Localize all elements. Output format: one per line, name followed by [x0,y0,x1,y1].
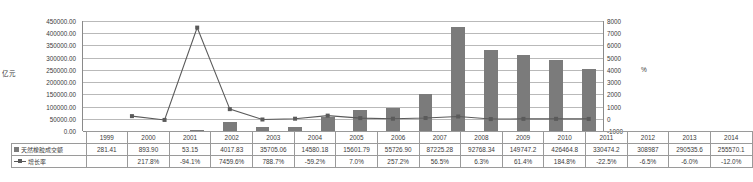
legend-item-turnover: 天然橡胶成交额 [12,144,87,156]
growth-rate-marker [130,114,134,118]
table-cell-turnover-2007: 87225.28 [419,144,461,156]
growth-rate-marker [326,114,330,118]
table-corner-cell [12,132,87,144]
gridline [83,70,603,71]
bar-2009 [419,94,433,131]
table-cell-turnover-2000: 893.90 [128,144,170,156]
table-cell-growth-2013: -6.0% [669,156,711,168]
table-cell-growth-2012: -6.5% [627,156,669,168]
y-axis-left-tick-label: 150000.00 [46,91,76,98]
bar-2003 [223,122,237,131]
table-row: 天然橡胶成交额281.41893.9053.154017.8335705.061… [12,144,753,156]
bar-2014 [582,69,596,131]
data-table-body: 1999200020012002200320042005200620072008… [12,132,753,168]
table-cell-turnover-2005: 15601.79 [336,144,378,156]
line-series-layer [83,21,603,131]
legend-label-growth-rate: 增长率 [28,157,46,167]
table-cell-growth-1999 [86,156,128,168]
table-header-2006: 2006 [377,132,419,144]
y-axis-right-tick-label: 1000 [607,103,621,110]
y-axis-right-tick-label: 8000 [607,18,621,25]
table-cell-growth-2011: -22.5% [586,156,628,168]
table-cell-turnover-2012: 308987 [627,144,669,156]
table-cell-growth-2008: 6.3% [461,156,503,168]
table-cell-turnover-2004: 14580.18 [294,144,336,156]
table-header-2008: 2008 [461,132,503,144]
gridline [83,94,603,95]
table-cell-growth-2007: 56.5% [419,156,461,168]
gridline [83,82,603,83]
table-cell-growth-2002: 7459.6% [211,156,253,168]
bar-series-layer [83,21,603,131]
table-cell-turnover-2013: 290535.6 [669,144,711,156]
gridline [83,107,603,108]
y-axis-right-tick-label: 4000 [607,66,621,73]
table-cell-growth-2014: -12.0% [710,156,752,168]
plot-area [82,21,604,131]
y-axis-right-tick-label: 6000 [607,42,621,49]
table-cell-growth-2005: 7.0% [336,156,378,168]
y-axis-left-tick-label: 400000.00 [46,30,76,37]
table-cell-turnover-2006: 55726.90 [377,144,419,156]
legend-label-turnover: 天然橡胶成交额 [21,145,63,155]
table-header-2012: 2012 [627,132,669,144]
table-header-2014: 2014 [710,132,752,144]
table-header-2000: 2000 [128,132,170,144]
y-axis-right-tick-label: 0 [607,115,611,122]
table-cell-growth-2003: 788.7% [253,156,295,168]
table-header-2002: 2002 [211,132,253,144]
gridline [83,119,603,120]
table-header-1999: 1999 [86,132,128,144]
bar-2010 [451,27,465,131]
table-header-2013: 2013 [669,132,711,144]
table-cell-growth-2000: 217.8% [128,156,170,168]
table-cell-growth-2004: -59.2% [294,156,336,168]
y-axis-right-tick-label: 2000 [607,91,621,98]
y-axis-left-tick-label: 250000.00 [46,66,76,73]
legend-item-growth-rate: 增长率 [12,156,87,168]
y-axis-right-ticks: -1000010002000300040005000600070008000 [607,21,667,131]
table-cell-turnover-2009: 149747.2 [502,144,544,156]
legend-bar-swatch-icon [14,147,19,152]
table-cell-growth-2009: 61.4% [502,156,544,168]
y-axis-left-tick-label: 50000.00 [50,115,76,122]
table-cell-turnover-2001: 53.15 [169,144,211,156]
table-cell-growth-2006: 257.2% [377,156,419,168]
table-cell-growth-2001: -94.1% [169,156,211,168]
table-cell-turnover-1999: 281.41 [86,144,128,156]
gridline [83,45,603,46]
table-header-2004: 2004 [294,132,336,144]
gridline [83,58,603,59]
gridline [83,33,603,34]
table-header-row: 1999200020012002200320042005200620072008… [12,132,753,144]
y-axis-left-tick-label: 450000.00 [46,18,76,25]
y-axis-left-tick-label: 350000.00 [46,42,76,49]
table-cell-turnover-2010: 426464.8 [544,144,586,156]
y-axis-left-tick-label: 100000.00 [46,103,76,110]
table-cell-turnover-2011: 330474.2 [586,144,628,156]
data-table: 1999200020012002200320042005200620072008… [11,131,753,168]
table-cell-growth-2010: 184.8% [544,156,586,168]
table-header-2010: 2010 [544,132,586,144]
table-cell-turnover-2008: 92768.34 [461,144,503,156]
table-header-2011: 2011 [586,132,628,144]
y-axis-left-tick-label: 200000.00 [46,79,76,86]
bar-2007 [353,110,367,131]
y-axis-left-tick-label: 300000.00 [46,54,76,61]
table-cell-turnover-2002: 4017.83 [211,144,253,156]
table-cell-turnover-2003: 35705.06 [253,144,295,156]
growth-rate-line [83,21,605,131]
table-header-2005: 2005 [336,132,378,144]
table-row: 增长率217.8%-94.1%7459.6%788.7%-59.2%7.0%25… [12,156,753,168]
table-header-2007: 2007 [419,132,461,144]
table-cell-turnover-2014: 255570.1 [710,144,752,156]
table-header-2001: 2001 [169,132,211,144]
table-header-2003: 2003 [253,132,295,144]
legend-line-swatch-icon [14,159,26,164]
y-axis-right-tick-label: 3000 [607,79,621,86]
gridline [83,21,603,22]
y-axis-right-tick-label: 5000 [607,54,621,61]
table-header-2009: 2009 [502,132,544,144]
y-axis-right-tick-label: 7000 [607,30,621,37]
